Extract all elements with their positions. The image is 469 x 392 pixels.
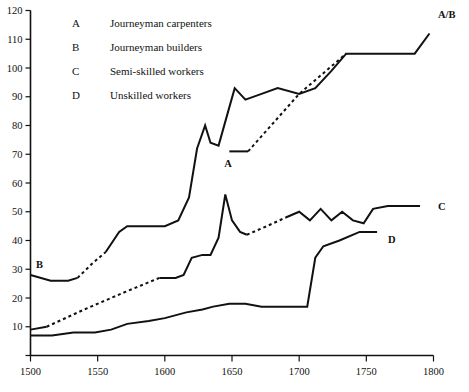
series-lines xyxy=(31,34,430,336)
legend-label-a: Journeyman carpenters xyxy=(110,17,212,29)
x-tick-label-1650: 1650 xyxy=(222,366,243,377)
series-b-segment-0 xyxy=(31,275,78,281)
x-tick-label-1800: 1800 xyxy=(423,366,444,377)
legend-label-d: Unskilled workers xyxy=(110,89,191,101)
legend-label-c: Semi-skilled workers xyxy=(110,65,204,77)
series-end-label-c: C xyxy=(438,201,446,212)
chart-container: 1020304050607080901001101201500155016001… xyxy=(0,0,469,392)
series-b-segment-1 xyxy=(78,252,106,278)
y-tick-label-110: 110 xyxy=(7,34,22,45)
series-end-labels: A/BBACD xyxy=(36,9,456,270)
series-c-segment-4 xyxy=(286,206,420,223)
x-tick-label-1750: 1750 xyxy=(356,366,377,377)
legend-key-a: A xyxy=(72,17,80,29)
y-tick-label-40: 40 xyxy=(12,235,23,246)
x-tick-label-1700: 1700 xyxy=(289,366,310,377)
y-tick-label-80: 80 xyxy=(12,120,23,131)
y-tick-label-10: 10 xyxy=(12,321,23,332)
x-tick-label-1550: 1550 xyxy=(87,366,108,377)
line-chart: 1020304050607080901001101201500155016001… xyxy=(0,0,469,392)
y-tick-label-50: 50 xyxy=(12,206,23,217)
series-c-segment-0 xyxy=(31,327,47,330)
y-tick-label-70: 70 xyxy=(12,149,23,160)
y-tick-label-120: 120 xyxy=(7,5,23,16)
y-tick-label-60: 60 xyxy=(12,178,23,189)
series-c-segment-3 xyxy=(247,218,286,235)
x-tick-label-1500: 1500 xyxy=(20,366,41,377)
series-c-segment-1 xyxy=(47,278,160,327)
series-end-label-a: A xyxy=(224,158,232,169)
x-tick-label-1600: 1600 xyxy=(154,366,175,377)
y-tick-label-30: 30 xyxy=(12,264,23,275)
series-end-label-ab: A/B xyxy=(438,9,456,20)
y-tick-label-20: 20 xyxy=(12,293,23,304)
series-end-label-b: B xyxy=(36,259,43,270)
legend-label-b: Journeyman builders xyxy=(110,41,202,53)
series-end-label-d: D xyxy=(388,234,396,245)
legend-key-d: D xyxy=(72,89,80,101)
legend-key-b: B xyxy=(72,41,79,53)
series-a-segment-1 xyxy=(248,54,346,152)
series-d-segment-0 xyxy=(31,232,378,336)
legend: AJourneyman carpentersBJourneyman builde… xyxy=(72,17,212,101)
y-tick-label-90: 90 xyxy=(12,91,23,102)
axes: 1020304050607080901001101201500155016001… xyxy=(7,5,444,376)
series-c-segment-2 xyxy=(159,195,246,278)
legend-key-c: C xyxy=(72,65,79,77)
y-tick-label-100: 100 xyxy=(7,63,23,74)
